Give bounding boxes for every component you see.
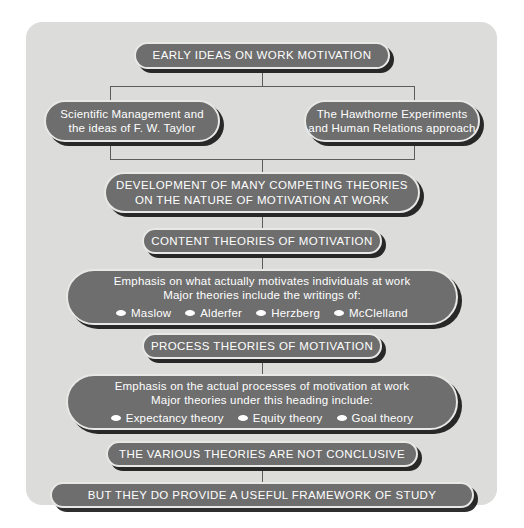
node-theories-not-conclusive[interactable]: THE VARIOUS THEORIES ARE NOT CONCLUSIVE: [106, 441, 418, 467]
bullet-dot-icon: [238, 415, 248, 421]
node-content-theories-heading-label: CONTENT THEORIES OF MOTIVATION: [151, 234, 372, 248]
node-hawthorne-experiments[interactable]: The Hawthorne Experiments and Human Rela…: [304, 100, 480, 142]
list-item: Herzberg: [256, 306, 320, 320]
connector-conclusion-one-to-two: [262, 471, 263, 482]
node-process-theories-detail[interactable]: Emphasis on the actual processes of moti…: [66, 374, 458, 430]
node-theories-not-conclusive-label: THE VARIOUS THEORIES ARE NOT CONCLUSIVE: [119, 447, 405, 461]
connector-content-heading-to-detail: [262, 258, 263, 269]
node-development-theories[interactable]: DEVELOPMENT OF MANY COMPETING THEORIES O…: [104, 172, 420, 213]
node-development-theories-line1: DEVELOPMENT OF MANY COMPETING THEORIES: [116, 178, 408, 192]
content-theorist-list: Maslow Alderfer Herzberg McClelland: [116, 306, 408, 320]
node-scientific-management-line2: the ideas of F. W. Taylor: [69, 121, 196, 135]
diagram-panel: EARLY IDEAS ON WORK MOTIVATION Scientifi…: [26, 22, 497, 505]
node-scientific-management[interactable]: Scientific Management and the ideas of F…: [44, 100, 220, 142]
connector-split-bracket: [110, 86, 415, 100]
bullet-dot-icon: [116, 310, 126, 316]
node-content-theories-detail[interactable]: Emphasis on what actually motivates indi…: [66, 269, 458, 325]
node-content-theories-heading[interactable]: CONTENT THEORIES OF MOTIVATION: [142, 228, 382, 254]
list-item-label: Equity theory: [253, 411, 323, 425]
node-process-theories-heading[interactable]: PROCESS THEORIES OF MOTIVATION: [142, 333, 382, 359]
node-content-theories-detail-line2: Major theories include the writings of:: [163, 288, 361, 302]
connector-root-stub: [262, 73, 263, 86]
process-theory-list: Expectancy theory Equity theory Goal the…: [111, 411, 413, 425]
connector-process-heading-to-detail: [262, 363, 263, 374]
list-item: Expectancy theory: [111, 411, 224, 425]
bullet-dot-icon: [334, 310, 344, 316]
connector-merge-bracket: [110, 146, 415, 160]
list-item-label: Goal theory: [352, 411, 414, 425]
connector-merge-stub: [262, 160, 263, 172]
node-early-ideas-label: EARLY IDEAS ON WORK MOTIVATION: [153, 48, 372, 62]
node-development-theories-line2: ON THE NATURE OF MOTIVATION AT WORK: [135, 193, 389, 207]
node-useful-framework-label: BUT THEY DO PROVIDE A USEFUL FRAMEWORK O…: [88, 488, 437, 502]
list-item-label: Herzberg: [271, 306, 320, 320]
list-item-label: McClelland: [349, 306, 408, 320]
node-early-ideas[interactable]: EARLY IDEAS ON WORK MOTIVATION: [134, 42, 390, 69]
node-process-theories-heading-label: PROCESS THEORIES OF MOTIVATION: [151, 339, 373, 353]
node-scientific-management-line1: Scientific Management and: [60, 107, 204, 121]
list-item-label: Maslow: [131, 306, 171, 320]
list-item: Goal theory: [337, 411, 414, 425]
bullet-dot-icon: [111, 415, 121, 421]
bullet-dot-icon: [256, 310, 266, 316]
connector-development-to-content: [262, 217, 263, 228]
node-content-theories-detail-line1: Emphasis on what actually motivates indi…: [114, 274, 411, 288]
list-item: Maslow: [116, 306, 171, 320]
bullet-dot-icon: [337, 415, 347, 421]
list-item: Alderfer: [185, 306, 242, 320]
list-item-label: Alderfer: [200, 306, 242, 320]
bullet-dot-icon: [185, 310, 195, 316]
list-item: Equity theory: [238, 411, 323, 425]
node-hawthorne-experiments-line1: The Hawthorne Experiments: [317, 107, 468, 121]
list-item-label: Expectancy theory: [126, 411, 224, 425]
node-useful-framework[interactable]: BUT THEY DO PROVIDE A USEFUL FRAMEWORK O…: [50, 482, 474, 508]
list-item: McClelland: [334, 306, 408, 320]
node-process-theories-detail-line2: Major theories under this heading includ…: [151, 393, 373, 407]
node-process-theories-detail-line1: Emphasis on the actual processes of moti…: [115, 379, 410, 393]
node-hawthorne-experiments-line2: and Human Relations approach: [308, 121, 475, 135]
